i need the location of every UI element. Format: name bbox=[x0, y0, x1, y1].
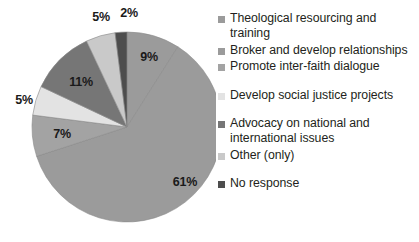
legend-swatch-icon bbox=[218, 93, 225, 100]
legend-item[interactable]: Theological resourcing and training bbox=[218, 11, 419, 42]
pie-slice-value-label: 9% bbox=[140, 50, 158, 64]
pie-slice-value-label: 5% bbox=[92, 10, 110, 24]
pie-chart-plot-area: 9%61%7%5%11%5%2% bbox=[0, 0, 216, 242]
legend-item-label: Other (only) bbox=[230, 148, 294, 163]
legend-item-label: Advocacy on national and international i… bbox=[230, 116, 419, 147]
legend-swatch-icon bbox=[218, 153, 225, 160]
legend-item[interactable]: Advocacy on national and international i… bbox=[218, 116, 419, 147]
pie-slice-value-label: 61% bbox=[173, 175, 197, 189]
legend-swatch-icon bbox=[218, 48, 225, 55]
legend-item[interactable]: Develop social justice projects bbox=[218, 88, 419, 103]
chart-legend: Theological resourcing and trainingBroke… bbox=[218, 11, 419, 193]
legend-item-label: Develop social justice projects bbox=[230, 88, 393, 103]
pie-slice-value-label: 5% bbox=[15, 93, 33, 107]
legend-item[interactable]: Other (only) bbox=[218, 148, 419, 163]
pie-chart-svg bbox=[0, 0, 216, 242]
legend-item-label: Promote inter-faith dialogue bbox=[230, 59, 380, 74]
legend-item-label: Theological resourcing and training bbox=[230, 11, 419, 42]
legend-item-label: No response bbox=[230, 176, 299, 191]
legend-item[interactable]: Promote inter-faith dialogue bbox=[218, 59, 419, 74]
legend-item[interactable]: Broker and develop relationships bbox=[218, 43, 419, 58]
pie-chart-figure: 9%61%7%5%11%5%2% Theological resourcing … bbox=[0, 0, 419, 242]
legend-item-label: Broker and develop relationships bbox=[230, 43, 408, 58]
legend-swatch-icon bbox=[218, 181, 225, 188]
legend-item[interactable]: No response bbox=[218, 176, 419, 191]
legend-swatch-icon bbox=[218, 16, 225, 23]
legend-swatch-icon bbox=[218, 121, 225, 128]
pie-slice-value-label: 11% bbox=[69, 75, 93, 89]
pie-slice-value-label: 2% bbox=[120, 6, 138, 20]
legend-swatch-icon bbox=[218, 64, 225, 71]
pie-slice-value-label: 7% bbox=[53, 127, 71, 141]
